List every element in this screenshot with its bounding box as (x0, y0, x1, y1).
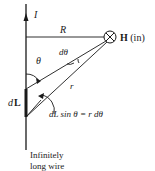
dtheta-arc-2 (78, 59, 79, 63)
current-label: I (33, 9, 38, 20)
field-point-label: H (in) (120, 32, 145, 44)
element-dL-label: dL (8, 97, 21, 108)
distance-R-label: R (59, 24, 66, 35)
current-arrow-icon (24, 13, 29, 21)
biot-savart-diagram: I R H (in) θ dθ r dL dL sin θ = r dθ Inf… (0, 0, 155, 171)
theta-label: θ (36, 55, 41, 66)
projection-line (26, 100, 41, 117)
distance-r-label: r (70, 81, 74, 91)
wire-caption-line1: Infinitely (30, 150, 64, 160)
field-into-page-icon (104, 31, 116, 43)
relation-arrow-icon (38, 93, 44, 99)
theta-arrow-icon (36, 78, 41, 84)
dtheta-label: dθ (59, 47, 69, 57)
wire-caption-line2: long wire (30, 161, 64, 171)
relation-label: dL sin θ = r dθ (49, 109, 104, 119)
